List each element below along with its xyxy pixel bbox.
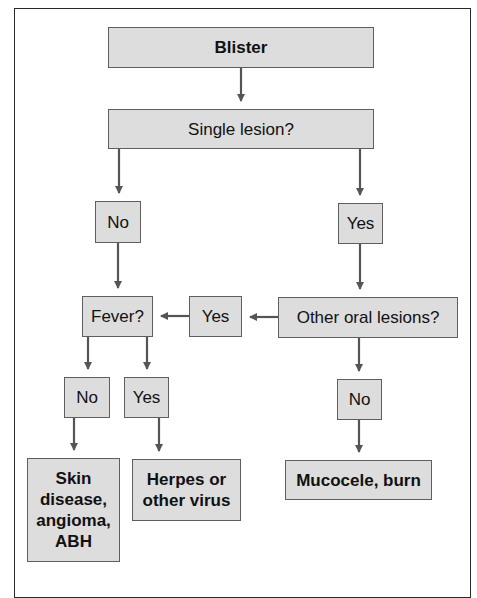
node-blister: Blister (108, 27, 374, 68)
node-other-oral-lesions: Other oral lesions? (278, 297, 458, 338)
node-single-lesion: Single lesion? (108, 109, 374, 149)
node-fever-no: No (64, 377, 110, 418)
outcome-mucocele: Mucocele, burn (285, 460, 432, 500)
node-other-lesions-yes: Yes (189, 296, 242, 337)
node-other-lesions-no: No (337, 379, 382, 420)
outcome-herpes: Herpes or other virus (132, 459, 241, 521)
node-fever-yes: Yes (124, 377, 169, 418)
node-fever: Fever? (82, 296, 153, 337)
node-single-lesion-yes: Yes (338, 203, 383, 244)
node-single-lesion-no: No (95, 201, 141, 243)
outcome-skin-disease: Skin disease, angioma, ABH (27, 458, 120, 562)
